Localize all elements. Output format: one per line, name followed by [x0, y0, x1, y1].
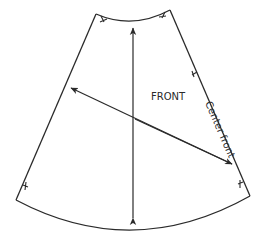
piece-label: FRONT — [151, 91, 186, 102]
notch-icon — [238, 180, 243, 188]
notch-icon — [192, 71, 197, 77]
side-seam — [16, 14, 96, 200]
center-front-label: Center front — [203, 99, 237, 159]
pattern-diagram: FRONT Center front — [0, 0, 266, 240]
